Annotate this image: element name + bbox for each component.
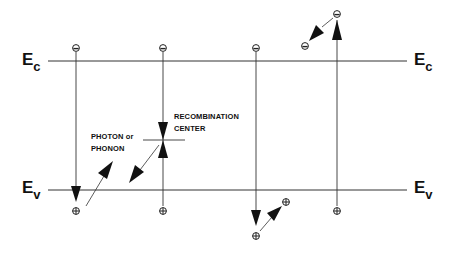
photon-phonon-label: PHOTON or PHONON bbox=[91, 131, 133, 155]
down-arrow-icon bbox=[158, 122, 168, 140]
photon-label-line2: PHONON bbox=[91, 143, 133, 155]
up-arrow-icon bbox=[158, 140, 168, 158]
photon-arrow-icon bbox=[98, 161, 113, 179]
ec-label-right: Ec bbox=[414, 50, 433, 72]
photon-label-line1: PHOTON or bbox=[91, 131, 133, 143]
recombination-label-line2: CENTER bbox=[174, 123, 239, 135]
process-electron-relaxation bbox=[302, 11, 342, 215]
up-arrow-icon bbox=[332, 20, 342, 40]
ec-label-left: Ec bbox=[22, 50, 41, 72]
process-hole-relaxation bbox=[251, 45, 289, 240]
ev-label-left: Ev bbox=[22, 178, 41, 200]
ev-label-right: Ev bbox=[414, 178, 433, 200]
process-band-to-band bbox=[71, 45, 113, 215]
diagonal-arrow-icon bbox=[267, 206, 282, 221]
down-arrow-icon bbox=[71, 186, 81, 202]
recombination-label-line1: RECOMBINATION bbox=[174, 111, 239, 123]
down-arrow-icon bbox=[251, 210, 261, 226]
recombination-center-label: RECOMBINATION CENTER bbox=[174, 111, 239, 135]
diagonal-arrow-icon bbox=[309, 25, 324, 41]
